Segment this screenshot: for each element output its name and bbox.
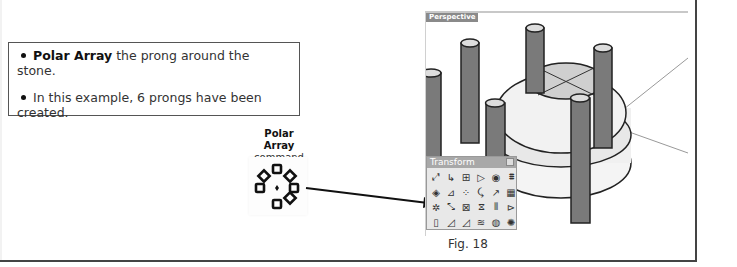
toolbar-title[interactable]: Transform: [427, 157, 516, 168]
scale-icon[interactable]: ▷: [474, 170, 488, 184]
array-icon[interactable]: ▦: [504, 185, 518, 199]
set-points-icon[interactable]: ⊿: [444, 185, 458, 199]
transform-toolbar: Transform ⤢ ↳ ⊞ ▷ ◉ ⩩ ◈ ⊿ ⁘ ⤹ ↗ ▦ ✲ ⤡ ⊠ …: [426, 156, 517, 230]
smash-icon[interactable]: ≋: [474, 215, 488, 229]
polar-array-tool-icon[interactable]: ✲: [429, 200, 443, 214]
orient-on-surface-icon[interactable]: ▯: [429, 215, 443, 229]
close-icon[interactable]: [506, 158, 514, 166]
toolbar-grid: ⤢ ↳ ⊞ ▷ ◉ ⩩ ◈ ⊿ ⁘ ⤹ ↗ ▦ ✲ ⤡ ⊠ ⧖ ⫴ ⊳ ▯ ◿ …: [427, 168, 516, 231]
project-icon[interactable]: ◿: [459, 215, 473, 229]
move-icon[interactable]: ⤢: [429, 170, 443, 184]
figure-caption: Fig. 18: [448, 237, 488, 251]
viewport-label[interactable]: Perspective: [426, 13, 478, 22]
stretch-icon[interactable]: ⧖: [474, 200, 488, 214]
orient-icon[interactable]: ◈: [429, 185, 443, 199]
rotate-3d-icon[interactable]: ◿: [444, 215, 458, 229]
scale-3d-icon[interactable]: ◉: [489, 170, 503, 184]
remap-icon[interactable]: ◍: [489, 215, 503, 229]
cage-edit-icon[interactable]: ⊠: [459, 200, 473, 214]
shear-icon[interactable]: ⊳: [504, 200, 518, 214]
flow-icon[interactable]: ⤡: [444, 200, 458, 214]
splop-icon[interactable]: ✺: [504, 215, 518, 229]
rotate-icon[interactable]: ⊞: [459, 170, 473, 184]
mirror-icon[interactable]: ⩩: [504, 170, 518, 184]
align-icon[interactable]: ⁘: [459, 185, 473, 199]
taper-icon[interactable]: ⫴: [489, 200, 503, 214]
twist-icon[interactable]: ↗: [489, 185, 503, 199]
bend-icon[interactable]: ⤹: [474, 185, 488, 199]
toolbar-title-text: Transform: [430, 157, 475, 167]
copy-icon[interactable]: ↳: [444, 170, 458, 184]
